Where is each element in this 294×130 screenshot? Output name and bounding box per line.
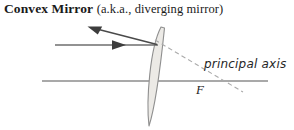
incident-ray-arrowhead xyxy=(112,40,126,49)
reflected-ray-arrowhead xyxy=(88,26,103,34)
reflected-ray xyxy=(92,28,157,45)
focal-point-label: F xyxy=(196,82,204,98)
principal-axis-label: principal axis xyxy=(204,57,286,71)
convex-mirror-figure: Convex Mirror (a.k.a., diverging mirror)… xyxy=(0,0,294,130)
convex-mirror-shape xyxy=(148,27,164,126)
